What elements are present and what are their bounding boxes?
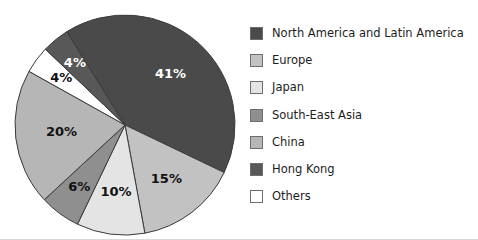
legend-item-label: South-East Asia xyxy=(272,109,362,122)
legend-swatch-icon xyxy=(250,163,263,176)
legend-item[interactable]: North America and Latin America xyxy=(250,26,476,41)
pie-slice-label: 6% xyxy=(68,179,90,194)
legend-item-label: Japan xyxy=(272,81,304,94)
legend-swatch-icon xyxy=(250,109,263,122)
pie-slice-label: 20% xyxy=(46,124,77,139)
legend-item-label: Europe xyxy=(272,54,312,67)
legend-item-label: China xyxy=(272,136,305,149)
legend-swatch-icon xyxy=(250,136,263,149)
pie-slice-label: 15% xyxy=(151,171,182,186)
pie-slice-label: 41% xyxy=(155,66,186,81)
chart-legend: North America and Latin AmericaEuropeJap… xyxy=(250,26,476,216)
legend-item-label: Hong Kong xyxy=(272,163,335,176)
pie-chart-figure: 41%15%10%6%20%4%4% North America and Lat… xyxy=(0,0,478,240)
pie-chart-svg: 41%15%10%6%20%4%4% xyxy=(0,0,244,240)
legend-item[interactable]: Hong Kong xyxy=(250,162,476,177)
pie-slice-label: 4% xyxy=(50,70,72,85)
pie-slice-label: 10% xyxy=(100,184,131,199)
legend-item-label: North America and Latin America xyxy=(272,27,464,40)
legend-swatch-icon xyxy=(250,190,263,203)
pie-slice-label: 4% xyxy=(64,55,86,70)
legend-item[interactable]: China xyxy=(250,135,476,150)
legend-item[interactable]: South-East Asia xyxy=(250,108,476,123)
legend-item[interactable]: Others xyxy=(250,189,476,204)
legend-swatch-icon xyxy=(250,27,263,40)
legend-swatch-icon xyxy=(250,54,263,67)
pie-chart-plot-area: 41%15%10%6%20%4%4% xyxy=(0,0,244,240)
legend-item[interactable]: Japan xyxy=(250,80,476,95)
legend-item-label: Others xyxy=(272,190,311,203)
legend-item[interactable]: Europe xyxy=(250,53,476,68)
legend-swatch-icon xyxy=(250,81,263,94)
